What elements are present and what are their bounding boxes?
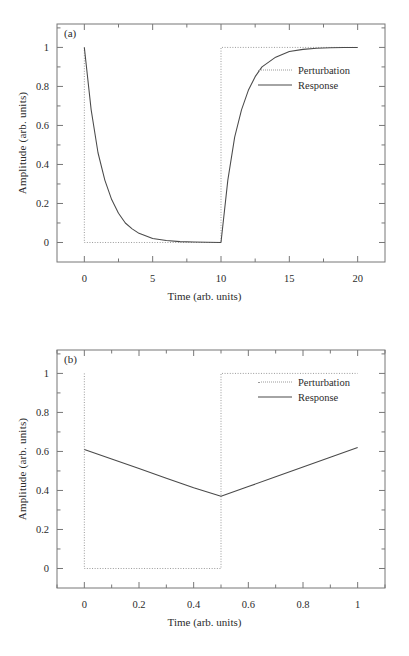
y-tick-label: 0.8: [23, 407, 49, 418]
y-tick-label: 0.4: [23, 159, 49, 170]
y-tick-label: 0.6: [23, 120, 49, 131]
panel-b: Amplitude (arb. units) Time (arb. units)…: [0, 326, 409, 656]
legend-label-response: Response: [298, 391, 338, 402]
legend-label-response: Response: [298, 79, 338, 90]
plot-frame: [57, 24, 385, 262]
x-tick-label: 0.8: [296, 599, 309, 610]
panel-b-x-axis-title: Time (arb. units): [0, 616, 409, 628]
series-perturbation: [84, 373, 357, 568]
panel-a-plot: [0, 0, 409, 330]
panel-a-label: (a): [64, 27, 76, 39]
y-tick-label: 0: [23, 563, 49, 574]
legend-swatch-perturbation-icon: [258, 381, 292, 382]
legend-swatch-response-icon: [258, 396, 292, 397]
legend-swatch-response-icon: [258, 84, 292, 85]
panel-a: Amplitude (arb. units) Time (arb. units)…: [0, 0, 409, 330]
x-tick-label: 5: [150, 273, 155, 284]
y-tick-label: 1: [23, 42, 49, 53]
figure: Amplitude (arb. units) Time (arb. units)…: [0, 0, 409, 656]
legend-label-perturbation: Perturbation: [298, 376, 350, 387]
x-tick-label: 0.2: [132, 599, 145, 610]
y-tick-label: 0.2: [23, 198, 49, 209]
x-tick-label: 1: [355, 599, 360, 610]
y-tick-label: 0.4: [23, 485, 49, 496]
legend-swatch-perturbation-icon: [258, 69, 292, 70]
y-tick-label: 0.8: [23, 81, 49, 92]
panel-b-y-axis-title: Amplitude (arb. units): [16, 350, 28, 588]
panel-a-y-axis-title: Amplitude (arb. units): [16, 24, 28, 262]
x-tick-label: 20: [352, 273, 363, 284]
x-tick-label: 0: [82, 273, 87, 284]
x-tick-label: 10: [216, 273, 227, 284]
y-tick-label: 0.2: [23, 524, 49, 535]
x-tick-label: 15: [284, 273, 295, 284]
y-tick-label: 1: [23, 368, 49, 379]
series-perturbation: [84, 47, 357, 242]
panel-b-label: (b): [64, 353, 77, 365]
y-tick-label: 0.6: [23, 446, 49, 457]
legend-label-perturbation: Perturbation: [298, 64, 350, 75]
y-tick-label: 0: [23, 237, 49, 248]
panel-a-x-axis-title: Time (arb. units): [0, 290, 409, 302]
x-tick-label: 0: [82, 599, 87, 610]
x-tick-label: 0.4: [187, 599, 200, 610]
x-tick-label: 0.6: [242, 599, 255, 610]
